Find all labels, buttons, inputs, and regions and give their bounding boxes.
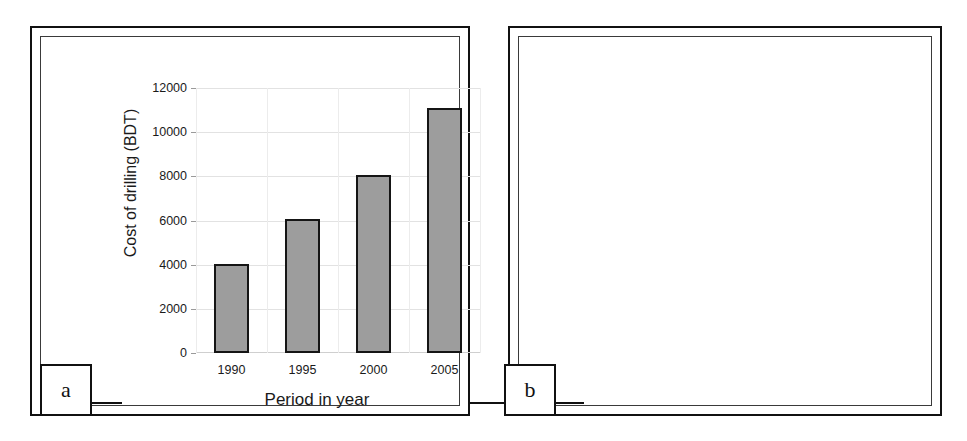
bar-chart-plot-area: 12000 10000 8000 6000 4000 2000 0 1990 1… [196,88,480,353]
ytick-mark [191,265,196,266]
panel-a-frame: Cost of drilling (BDT) [30,26,470,416]
gridline-vertical-1 [267,88,268,353]
ytick-mark [191,353,196,354]
xtick-label-2005: 2005 [431,363,459,377]
ytick-label-10000: 10000 [152,125,187,139]
panel-label-b: b [504,364,556,416]
ytick-mark [191,176,196,177]
bar-1995 [285,219,319,353]
ytick-label-0: 0 [180,346,187,360]
xtick-label-1990: 1990 [218,363,246,377]
panel-label-a: a [40,364,92,416]
bar-2005 [427,108,461,353]
connector-a-right [92,402,122,404]
bar-1990 [214,264,248,353]
gridline-vertical-3 [409,88,410,353]
bar-chart: Cost of drilling (BDT) [78,70,486,426]
connector-b-left [470,402,506,404]
xtick-label-2000: 2000 [360,363,388,377]
gridline-vertical-right [480,88,481,353]
panel-b-inner-frame [518,36,932,406]
ytick-mark [191,309,196,310]
bar-chart-x-axis-title: Period in year [152,390,482,410]
ytick-label-2000: 2000 [159,302,187,316]
ytick-label-8000: 8000 [159,169,187,183]
bar-chart-y-axis-title: Cost of drilling (BDT) [122,68,140,298]
connector-b-right [556,402,584,404]
figure-root: Cost of drilling (BDT) [0,0,967,441]
panel-b-frame: 25% 75% 1990-1999 2000-2006 [508,26,942,416]
xtick-label-1995: 1995 [289,363,317,377]
gridline-vertical-2 [338,88,339,353]
ytick-label-6000: 6000 [159,214,187,228]
ytick-label-4000: 4000 [159,258,187,272]
ytick-label-12000: 12000 [152,81,187,95]
ytick-mark [191,221,196,222]
bar-2000 [356,175,390,353]
ytick-mark [191,132,196,133]
ytick-mark [191,88,196,89]
gridline-vertical-left [196,88,197,353]
